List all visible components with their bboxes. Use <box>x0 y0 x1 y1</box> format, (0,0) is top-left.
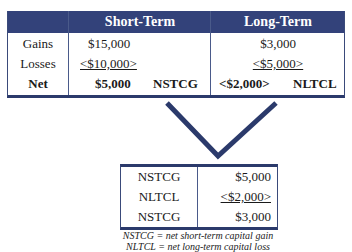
column-divider <box>197 167 198 227</box>
row-label: NSTCG <box>121 207 197 227</box>
row-value: $5,000 <box>235 167 271 187</box>
footnote: NLTCL = net long-term capital loss <box>22 241 352 252</box>
row-label: NSTCG <box>121 167 197 187</box>
net-result-table: NSTCG $5,000 NLTCL <$2,000> NSTCG $3,000 <box>120 164 278 230</box>
row-value: <$2,000> <box>221 187 271 207</box>
row-value: $3,000 <box>235 207 271 227</box>
row-label: NLTCL <box>121 187 197 207</box>
